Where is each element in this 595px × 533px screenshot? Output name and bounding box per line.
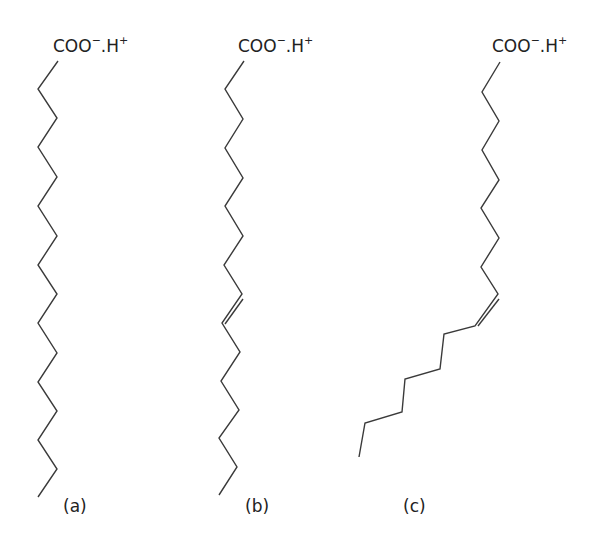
head-group-b: COO−.H+ [238, 34, 313, 56]
molecule-a: COO−.H+ (a) [38, 34, 128, 516]
carbon-chain-a [38, 61, 58, 497]
double-bond-b [225, 299, 243, 324]
double-bond-c [478, 299, 499, 326]
carbon-chain-b [219, 61, 244, 495]
carbon-chain-c [359, 62, 500, 457]
label-c: (c) [403, 496, 426, 516]
label-a: (a) [63, 496, 87, 516]
fatty-acid-diagram: COO−.H+ (a) COO−.H+ (b) COO−.H+ (c) [0, 0, 595, 533]
label-b: (b) [245, 496, 269, 516]
head-group-a: COO−.H+ [53, 34, 128, 56]
head-group-c: COO−.H+ [492, 34, 567, 56]
molecule-c: COO−.H+ (c) [359, 34, 567, 516]
molecule-b: COO−.H+ (b) [219, 34, 313, 516]
